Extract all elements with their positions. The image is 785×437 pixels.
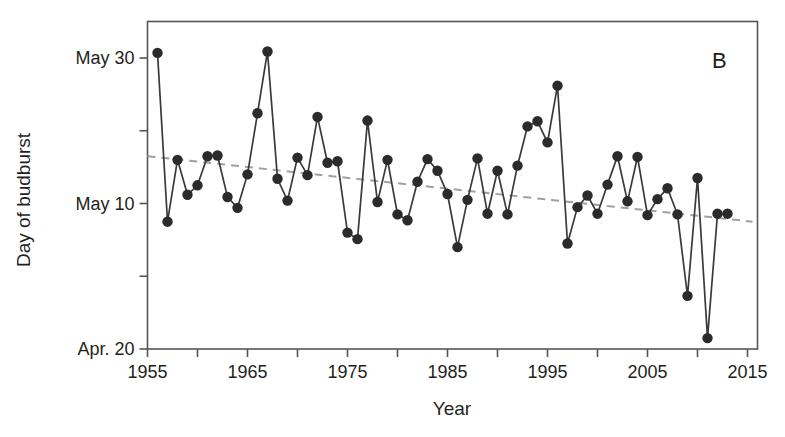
data-point	[542, 137, 552, 147]
data-point	[362, 115, 372, 125]
data-point	[702, 333, 712, 343]
x-axis-ticks	[148, 349, 748, 357]
data-point	[382, 155, 392, 165]
data-point	[712, 208, 722, 218]
data-point	[632, 152, 642, 162]
y-tick-label: Apr. 20	[77, 339, 134, 359]
data-point	[272, 174, 282, 184]
data-point	[322, 158, 332, 168]
data-point	[412, 176, 422, 186]
x-tick-label: 2005	[627, 362, 667, 382]
data-point	[462, 195, 472, 205]
data-point	[222, 192, 232, 202]
data-point	[722, 208, 732, 218]
data-point	[652, 194, 662, 204]
x-tick-label: 1985	[427, 362, 467, 382]
data-point	[292, 152, 302, 162]
x-tick-label: 1975	[327, 362, 367, 382]
data-point	[662, 183, 672, 193]
data-point	[592, 208, 602, 218]
data-point	[172, 155, 182, 165]
data-point	[442, 189, 452, 199]
data-point	[282, 195, 292, 205]
data-point	[582, 190, 592, 200]
data-point	[692, 173, 702, 183]
data-point	[612, 151, 622, 161]
data-point	[502, 209, 512, 219]
data-point	[152, 48, 162, 58]
data-point	[312, 112, 322, 122]
data-point	[202, 151, 212, 161]
data-point	[642, 210, 652, 220]
x-axis-title: Year	[433, 398, 472, 419]
y-axis-tick-labels: Apr. 20May 10May 30	[75, 48, 134, 359]
y-axis-ticks	[140, 58, 148, 349]
data-point	[232, 203, 242, 213]
data-point	[482, 208, 492, 218]
data-point	[532, 116, 542, 126]
data-point	[572, 202, 582, 212]
data-point	[252, 108, 262, 118]
panel-label-b: B	[712, 48, 727, 73]
data-point	[212, 150, 222, 160]
data-point	[472, 153, 482, 163]
data-point	[162, 216, 172, 226]
budburst-chart: Apr. 20May 10May 30 19551965197519851995…	[0, 0, 785, 437]
data-point	[392, 209, 402, 219]
data-point	[342, 227, 352, 237]
data-point	[352, 234, 362, 244]
y-tick-label: May 30	[75, 48, 134, 68]
data-point	[432, 166, 442, 176]
y-axis-title: Day of budburst	[13, 132, 34, 267]
data-point	[332, 156, 342, 166]
data-point	[622, 196, 632, 206]
data-point	[562, 238, 572, 248]
data-point	[682, 291, 692, 301]
data-point	[262, 46, 272, 56]
data-point	[522, 121, 532, 131]
data-point	[192, 180, 202, 190]
data-point	[422, 154, 432, 164]
data-point	[552, 80, 562, 90]
x-tick-label: 1965	[227, 362, 267, 382]
data-point	[672, 209, 682, 219]
data-point	[452, 242, 462, 252]
data-point	[242, 169, 252, 179]
x-tick-label: 2015	[727, 362, 767, 382]
x-tick-label: 1995	[527, 362, 567, 382]
x-axis-tick-labels: 1955196519751985199520052015	[127, 362, 767, 382]
y-tick-label: May 10	[75, 194, 134, 214]
data-point	[372, 197, 382, 207]
data-point	[492, 166, 502, 176]
data-point	[512, 160, 522, 170]
data-point	[302, 170, 312, 180]
data-point	[602, 179, 612, 189]
data-point	[182, 190, 192, 200]
data-point	[402, 215, 412, 225]
x-tick-label: 1955	[127, 362, 167, 382]
